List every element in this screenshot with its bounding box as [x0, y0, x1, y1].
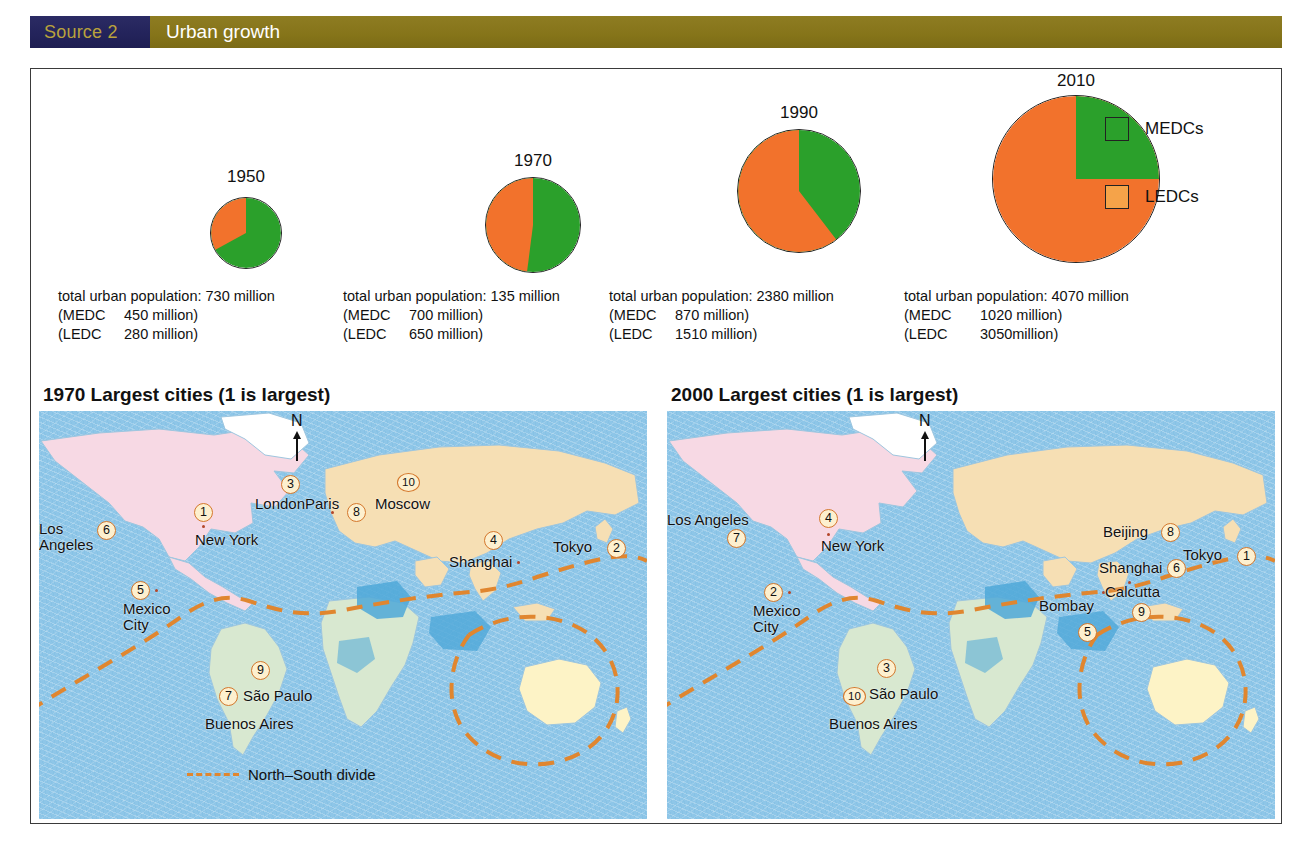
compass-north-label: N [919, 413, 931, 429]
pie-caption-1970: total urban population: 135 million (MED… [343, 287, 560, 344]
content-frame: 1950 total urban population: 730 million… [30, 68, 1282, 824]
map-marker-rank-1[interactable]: 1 [194, 503, 213, 522]
city-label-paris: Paris [305, 495, 339, 512]
ledc-key: (LEDC [609, 325, 671, 344]
map-canvas-1970[interactable]: N 1 New York 2 Tokyo 3 London 4 Shanghai… [39, 411, 647, 819]
city-label-calcutta: Calcutta [1105, 583, 1160, 600]
page-title: Urban growth [150, 16, 1282, 48]
pie-year-label: 1990 [780, 103, 818, 123]
map-title-1970: 1970 Largest cities (1 is largest) [39, 379, 647, 411]
city-dot-mexico-city [788, 591, 791, 594]
ledc-row: (LEDC 3050million) [904, 325, 1129, 344]
legend-item-medcs: MEDCs [1105, 117, 1255, 141]
city-label-london: London [255, 495, 305, 512]
medc-key: (MEDC [609, 306, 671, 325]
legend-swatch-ledcs [1105, 185, 1129, 209]
map-marker-rank-9[interactable]: 9 [251, 661, 270, 680]
legend-item-ledcs: LEDCs [1105, 185, 1255, 209]
city-label-tokyo: Tokyo [1183, 546, 1222, 563]
source-number-label: Source 2 [30, 16, 150, 48]
city-label-bombay: Bombay [1039, 597, 1094, 614]
city-label-new-york: New York [821, 537, 884, 554]
medc-row: (MEDC 1020 million) [904, 306, 1129, 325]
map-canvas-2000[interactable]: N 1 Tokyo 2 MexicoCity 3 São Paulo 4 New… [667, 411, 1275, 819]
total-population-label: total urban population: 4070 million [904, 287, 1129, 306]
pie-group-1990: 1990 total urban population: 2380 millio… [679, 69, 919, 369]
ledc-row: (LEDC 1510 million) [609, 325, 834, 344]
source-banner: Source 2 Urban growth [30, 16, 1282, 48]
city-dot-new-york [202, 525, 205, 528]
map-marker-rank-5[interactable]: 5 [131, 581, 150, 600]
map-marker-rank-7[interactable]: 7 [219, 687, 238, 706]
pie-chart-1990 [737, 129, 861, 253]
city-label-moscow: Moscow [375, 495, 430, 512]
pie-year-label: 1970 [514, 151, 552, 171]
map-marker-rank-10[interactable]: 10 [843, 687, 866, 706]
map-marker-rank-4[interactable]: 4 [484, 531, 503, 550]
pie-chart-1970 [485, 177, 581, 273]
map-marker-rank-3[interactable]: 3 [877, 659, 896, 678]
medc-value: 1020 million) [980, 306, 1062, 325]
pie-chart-1950 [210, 197, 282, 269]
map-marker-rank-1[interactable]: 1 [1237, 547, 1256, 566]
total-population-label: total urban population: 2380 million [609, 287, 834, 306]
city-label-los-angeles: Los Angeles [667, 511, 749, 528]
legend-label-medcs: MEDCs [1145, 119, 1204, 139]
pie-svg [211, 198, 281, 268]
ledc-value: 1510 million) [675, 325, 757, 344]
medc-row: (MEDC 870 million) [609, 306, 834, 325]
map-marker-rank-9[interactable]: 9 [1132, 603, 1151, 622]
city-label-new-york: New York [195, 531, 258, 548]
ledc-key: (LEDC [58, 325, 120, 344]
ledc-value: 280 million) [124, 325, 198, 344]
map-marker-rank-8[interactable]: 8 [347, 503, 366, 522]
city-label-mexico-city: MexicoCity [123, 601, 171, 633]
maps-panel: 1970 Largest cities (1 is largest) [31, 379, 1281, 823]
compass-shaft [924, 439, 926, 461]
map-marker-rank-10[interactable]: 10 [397, 473, 420, 492]
total-population-label: total urban population: 135 million [343, 287, 560, 306]
map-2000: 2000 Largest cities (1 is largest) [667, 379, 1275, 823]
city-label-buenos-aires: Buenos Aires [205, 715, 293, 732]
ledc-value: 3050million) [980, 325, 1058, 344]
city-label-beijing: Beijing [1103, 523, 1148, 540]
medc-row: (MEDC 700 million) [343, 306, 560, 325]
compass-arrow-icon [921, 431, 929, 439]
city-label-shanghai: Shanghai [1099, 559, 1162, 576]
city-label-los-angeles: LosAngeles [39, 521, 93, 553]
city-dot-new-york [827, 533, 830, 536]
pie-group-1950: 1950 total urban population: 730 million… [126, 69, 366, 369]
map-marker-rank-6[interactable]: 6 [97, 521, 116, 540]
pie-caption-1950: total urban population: 730 million (MED… [58, 287, 275, 344]
map-marker-rank-7[interactable]: 7 [727, 529, 746, 548]
ledc-row: (LEDC 650 million) [343, 325, 560, 344]
medc-value: 450 million) [124, 306, 198, 325]
medc-key: (MEDC [58, 306, 120, 325]
ledc-value: 650 million) [409, 325, 483, 344]
pie-year-label: 1950 [227, 167, 265, 187]
ledc-row: (LEDC 280 million) [58, 325, 275, 344]
city-label-mexico-city: MexicoCity [753, 603, 801, 635]
city-label-sao-paulo: São Paulo [243, 687, 312, 704]
total-population-label: total urban population: 730 million [58, 287, 275, 306]
medc-row: (MEDC 450 million) [58, 306, 275, 325]
compass-arrow-icon [293, 431, 301, 439]
city-label-buenos-aires: Buenos Aires [829, 715, 917, 732]
city-dot-shanghai [517, 561, 520, 564]
map-marker-rank-6[interactable]: 6 [1167, 559, 1186, 578]
map-marker-rank-5[interactable]: 5 [1078, 623, 1097, 642]
medc-value: 700 million) [409, 306, 483, 325]
compass-shaft [296, 439, 298, 461]
map-marker-rank-2[interactable]: 2 [764, 583, 783, 602]
map-marker-rank-3[interactable]: 3 [281, 475, 300, 494]
pie-year-label: 2010 [1057, 71, 1095, 91]
map-marker-rank-2[interactable]: 2 [607, 539, 626, 558]
map-marker-rank-4[interactable]: 4 [819, 509, 838, 528]
city-label-tokyo: Tokyo [553, 538, 592, 555]
map-marker-rank-8[interactable]: 8 [1161, 523, 1180, 542]
north-south-divide-key: North–South divide [187, 766, 376, 783]
pie-chart-panel: 1950 total urban population: 730 million… [31, 69, 1281, 379]
city-dot-mexico-city [155, 589, 158, 592]
pie-caption-2010: total urban population: 4070 million (ME… [904, 287, 1129, 344]
ledc-key: (LEDC [343, 325, 405, 344]
